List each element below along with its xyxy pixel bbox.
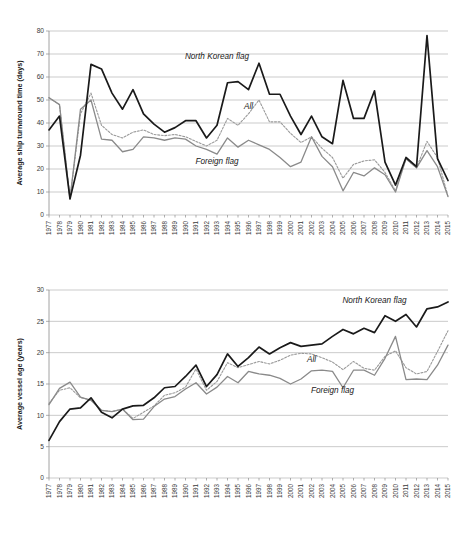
- x-tick-label: 1995: [234, 484, 241, 499]
- x-tick-label: 2006: [350, 484, 357, 499]
- x-tick-label: 2015: [444, 484, 451, 499]
- x-tick-label: 1996: [245, 221, 252, 236]
- x-tick-label: 2010: [392, 221, 399, 236]
- x-tick-label: 2005: [339, 484, 346, 499]
- x-tick-label: 1994: [224, 484, 231, 499]
- x-tick-label: 2010: [392, 484, 399, 499]
- x-tick-label: 1985: [129, 221, 136, 236]
- x-tick-label: 1989: [171, 484, 178, 499]
- x-tick-label: 1990: [182, 484, 189, 499]
- x-tick-label: 2002: [308, 221, 315, 236]
- x-tick-label: 1979: [66, 221, 73, 236]
- x-tick-label: 1982: [98, 221, 105, 236]
- x-tick-label: 2003: [318, 484, 325, 499]
- x-tick-label: 1984: [119, 484, 126, 499]
- x-tick-label: 1984: [119, 221, 126, 236]
- x-tick-label: 1998: [266, 484, 273, 499]
- x-tick-label: 2014: [434, 484, 441, 499]
- x-tick-label: 2009: [381, 221, 388, 236]
- x-tick-label: 1978: [56, 484, 63, 499]
- x-tick-label: 1977: [45, 484, 52, 499]
- x-tick-label: 2001: [297, 484, 304, 499]
- x-tick-label: 1989: [171, 221, 178, 236]
- annotation-north-korean-flag: North Korean flag: [185, 52, 250, 61]
- y-tick-label: 20: [37, 349, 45, 356]
- vessel-age-panel: 0510152025301977197819791980198119821983…: [0, 270, 461, 537]
- x-tick-label: 1986: [140, 484, 147, 499]
- x-tick-label: 1980: [77, 484, 84, 499]
- x-tick-label: 1987: [150, 221, 157, 236]
- x-tick-label: 1981: [87, 484, 94, 499]
- x-tick-label: 1994: [224, 221, 231, 236]
- x-tick-label: 1999: [276, 484, 283, 499]
- x-tick-label: 2003: [318, 221, 325, 236]
- x-tick-label: 1991: [192, 484, 199, 499]
- y-tick-label: 5: [40, 443, 44, 450]
- x-tick-label: 1993: [213, 484, 220, 499]
- y-tick-label: 30: [37, 286, 45, 293]
- x-tick-label: 2000: [287, 484, 294, 499]
- figure-container: 0102030405060708019771978197919801981198…: [0, 0, 461, 537]
- x-tick-label: 1992: [203, 221, 210, 236]
- y-tick-label: 50: [37, 96, 45, 103]
- x-tick-label: 2005: [339, 221, 346, 236]
- x-tick-label: 1979: [66, 484, 73, 499]
- vessel-age-chart: 0510152025301977197819791980198119821983…: [0, 270, 461, 537]
- x-tick-label: 1987: [150, 484, 157, 499]
- x-tick-label: 1980: [77, 221, 84, 236]
- x-tick-label: 1981: [87, 221, 94, 236]
- y-tick-label: 70: [37, 50, 45, 57]
- y-axis-title: Average vessel age (years): [15, 337, 24, 430]
- x-tick-label: 1988: [161, 221, 168, 236]
- x-tick-label: 2004: [329, 484, 336, 499]
- x-tick-label: 2008: [371, 221, 378, 236]
- y-tick-label: 20: [37, 165, 45, 172]
- y-axis-title: Average ship turnaround time (days): [15, 60, 24, 186]
- x-tick-label: 2007: [360, 221, 367, 236]
- x-tick-label: 2013: [423, 484, 430, 499]
- annotation-all: All: [243, 102, 253, 111]
- x-tick-label: 2011: [402, 221, 409, 235]
- x-tick-label: 2007: [360, 484, 367, 499]
- x-tick-label: 1988: [161, 484, 168, 499]
- x-tick-label: 2004: [329, 221, 336, 236]
- x-tick-label: 1986: [140, 221, 147, 236]
- turnaround-time-chart: 0102030405060708019771978197919801981198…: [0, 0, 461, 270]
- x-tick-label: 1999: [276, 221, 283, 236]
- y-tick-label: 0: [40, 211, 44, 218]
- x-tick-label: 1983: [108, 484, 115, 499]
- series-line-all: [49, 331, 448, 419]
- x-tick-label: 1991: [192, 221, 199, 236]
- x-tick-label: 1995: [234, 221, 241, 236]
- x-tick-label: 1997: [255, 221, 262, 236]
- x-tick-label: 2015: [444, 221, 451, 236]
- y-tick-label: 10: [37, 412, 45, 419]
- x-tick-label: 1993: [213, 221, 220, 236]
- x-tick-label: 1985: [129, 484, 136, 499]
- x-tick-label: 1996: [245, 484, 252, 499]
- x-tick-label: 2000: [287, 221, 294, 236]
- x-tick-label: 2006: [350, 221, 357, 236]
- x-tick-label: 1977: [45, 221, 52, 236]
- y-tick-label: 10: [37, 188, 45, 195]
- y-tick-label: 30: [37, 142, 45, 149]
- x-tick-label: 2014: [434, 221, 441, 236]
- y-tick-label: 40: [37, 119, 45, 126]
- x-tick-label: 1997: [255, 484, 262, 499]
- y-tick-label: 25: [37, 318, 45, 325]
- x-tick-label: 2013: [423, 221, 430, 236]
- x-tick-label: 2012: [413, 221, 420, 236]
- x-tick-label: 1978: [56, 221, 63, 236]
- y-tick-label: 0: [40, 474, 44, 481]
- series-line-foreign-flag: [49, 336, 448, 419]
- x-tick-label: 1983: [108, 221, 115, 236]
- x-tick-label: 1992: [203, 484, 210, 499]
- x-tick-label: 1982: [98, 484, 105, 499]
- x-tick-label: 1998: [266, 221, 273, 236]
- series-line-foreign-flag: [49, 98, 448, 199]
- y-tick-label: 15: [37, 380, 45, 387]
- x-tick-label: 1990: [182, 221, 189, 236]
- annotation-foreign-flag: Foreign flag: [311, 386, 355, 395]
- annotation-foreign-flag: Foreign flag: [195, 157, 239, 166]
- x-tick-label: 2009: [381, 484, 388, 499]
